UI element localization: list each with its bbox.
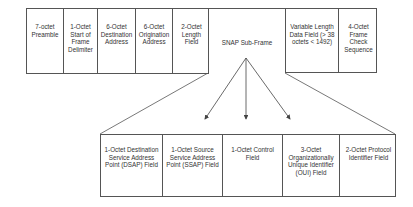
- snap-subframe-block: 1-Octet Destination Service Address Poin…: [100, 134, 396, 197]
- field-control: 1-Octet Control Field: [223, 135, 283, 196]
- field-ssap: 1-Octet Source Service Address Point (SS…: [163, 135, 223, 196]
- field-protocol-identifier: 2-Octet Protocol Identifier Field: [340, 135, 397, 196]
- field-data: Variable Length Data Field (> 38 octets …: [286, 9, 339, 72]
- field-origination-address: 6-Octet Origination Address: [136, 9, 173, 73]
- field-preamble: 7-octet Preamble: [27, 9, 64, 73]
- field-start-of-frame-delimiter: 1-Octet Start of Frame Delimiter: [64, 9, 98, 73]
- frame-top-border: [208, 8, 286, 9]
- field-oui: 3-Octet Organizationally Unique Identifi…: [283, 135, 340, 196]
- frame-left-block: 7-octet Preamble 1-Octet Start of Frame …: [26, 8, 209, 74]
- field-length: 2-Octet Length Field: [173, 9, 210, 73]
- field-frame-check-sequence: 4-Octet Frame Check Sequence: [339, 9, 378, 72]
- field-destination-address: 6-Octet Destination Address: [98, 9, 136, 73]
- frame-right-block: Variable Length Data Field (> 38 octets …: [285, 8, 377, 73]
- field-dsap: 1-Octet Destination Service Address Poin…: [101, 135, 163, 196]
- snap-subframe-label: SNAP Sub-Frame: [208, 39, 286, 46]
